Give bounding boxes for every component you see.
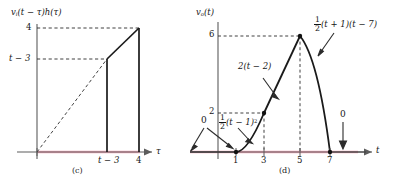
panel-c-y-tick-t-minus-3: t − 3 bbox=[9, 54, 30, 63]
panel-d-point-1-0 bbox=[234, 150, 238, 154]
panel-d-point-5-6 bbox=[298, 34, 302, 38]
panel-d-y-tick-2: 2 bbox=[209, 107, 214, 116]
panel-d-annotation-zero-right: 0 bbox=[340, 110, 346, 119]
panel-d-annotation-two-t-minus-2: 2(t − 2) bbox=[238, 62, 271, 71]
panel-d-point-3-2 bbox=[262, 111, 266, 115]
panel-d-annotation-half-t-plus-1-t-minus-7: 1 2 (t + 1)(t − 7) bbox=[314, 16, 377, 33]
fraction-one-half-b: 1 2 bbox=[314, 16, 321, 33]
panel-c-x-tick-t-minus-3: t − 3 bbox=[98, 156, 119, 165]
panel-d-arrow-half-t-plus-1-t-minus-7 bbox=[318, 33, 334, 56]
panel-c: vi(t − τ)h(τ) 4 t − 3 t − 3 4 τ (c) bbox=[0, 0, 190, 189]
panel-d-y-axis-label-rest: (t) bbox=[204, 7, 214, 17]
panel-d-x-tick-1: 1 bbox=[233, 156, 238, 165]
panel-d-annotation-half-t-minus-1-squared: 1 2 (t − 1)2 bbox=[219, 114, 257, 131]
panel-d-y-tick-6: 6 bbox=[209, 30, 214, 39]
panel-d-x-tick-5: 5 bbox=[297, 156, 302, 165]
panel-c-y-axis-label-rest: (t − τ)h(τ) bbox=[18, 7, 62, 17]
annotation-body-a: (t − 1) bbox=[226, 117, 254, 127]
panel-d-x-tick-3: 3 bbox=[261, 156, 266, 165]
panel-d-arrow-zero-left-b bbox=[207, 128, 233, 149]
fraction-denominator-a: 2 bbox=[219, 123, 226, 131]
panel-d-linear-middle bbox=[264, 36, 300, 113]
panel-c-x-axis-arrowhead bbox=[144, 148, 152, 155]
fraction-one-half-a: 1 2 bbox=[219, 114, 226, 131]
panel-c-dashed-ramp bbox=[37, 59, 107, 152]
fraction-denominator-b: 2 bbox=[314, 25, 321, 33]
panel-d-annotation-zero-left: 0 bbox=[201, 116, 207, 125]
panel-d-caption: (d) bbox=[279, 166, 290, 175]
panel-d-y-axis-label: vo(t) bbox=[196, 8, 214, 17]
annotation-body-b: (t + 1)(t − 7) bbox=[321, 19, 377, 29]
panel-c-caption: (c) bbox=[72, 166, 83, 175]
panel-c-y-axis-label: vi(t − τ)h(τ) bbox=[11, 8, 62, 17]
panel-d-arrow-zero-right bbox=[340, 122, 347, 149]
panel-c-y-tick-4: 4 bbox=[26, 23, 31, 32]
panel-c-x-tick-4: 4 bbox=[136, 156, 141, 165]
panel-d-x-tick-7: 7 bbox=[327, 156, 332, 165]
panel-d: vo(t) 6 2 1 3 5 7 t 0 1 2 (t − 1)2 2(t −… bbox=[190, 0, 399, 189]
figure-container: vi(t − τ)h(τ) 4 t − 3 t − 3 4 τ (c) bbox=[0, 0, 399, 189]
panel-c-solid-ramp bbox=[107, 28, 139, 59]
panel-d-arrow-zero-left-a bbox=[191, 128, 205, 151]
panel-d-point-7-0 bbox=[328, 150, 332, 154]
panel-c-x-axis-name: τ bbox=[156, 147, 161, 156]
panel-d-x-axis-name: t bbox=[376, 146, 379, 155]
panel-d-parabolic-fall bbox=[300, 36, 330, 152]
annotation-exponent-a: 2 bbox=[254, 118, 257, 124]
